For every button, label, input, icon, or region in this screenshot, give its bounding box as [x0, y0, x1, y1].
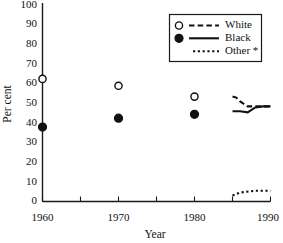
- x-tick-label: 1960: [32, 211, 55, 223]
- x-tick-label: 1990: [257, 211, 280, 223]
- legend-marker-open-circle: [175, 22, 182, 29]
- x-axis-title: Year: [144, 228, 165, 240]
- y-tick-label: 40: [26, 116, 38, 128]
- series-black: [39, 106, 271, 131]
- data-point-marker: [191, 110, 199, 118]
- data-point-marker: [115, 82, 122, 89]
- data-point-marker: [115, 114, 123, 122]
- legend: White Black Other *: [170, 15, 262, 62]
- percent-by-race-line-chart: 100 90 80 70 60 50 40 30 20 10 0 1960: [0, 0, 283, 243]
- series-line-white: [233, 97, 271, 107]
- x-tick-label: 1970: [108, 211, 131, 223]
- y-tick-label: 70: [26, 57, 38, 69]
- series-line-other: [233, 191, 271, 196]
- y-tick-label: 0: [32, 194, 38, 206]
- y-tick-label: 100: [21, 0, 38, 10]
- y-axis-tick-labels: 100 90 80 70 60 50 40 30 20 10 0: [21, 0, 38, 206]
- y-tick-label: 50: [26, 96, 38, 108]
- y-tick-label: 30: [26, 135, 38, 147]
- y-axis-title: Per cent: [1, 85, 13, 123]
- legend-label: Other *: [225, 44, 258, 56]
- y-tick-label: 60: [26, 76, 38, 88]
- data-point-marker: [39, 123, 47, 131]
- y-tick-label: 90: [26, 17, 38, 29]
- legend-marker-filled-circle: [175, 34, 183, 42]
- legend-label: White: [225, 18, 252, 30]
- x-axis-ticks: [43, 197, 271, 202]
- data-point-marker: [39, 75, 46, 82]
- x-tick-label: 1980: [184, 211, 207, 223]
- y-tick-label: 10: [26, 175, 38, 187]
- y-tick-label: 20: [26, 155, 38, 167]
- series-other: [233, 191, 271, 196]
- chart-container: 100 90 80 70 60 50 40 30 20 10 0 1960: [0, 0, 283, 243]
- legend-label: Black: [225, 31, 251, 43]
- data-point-marker: [191, 93, 198, 100]
- x-axis-tick-labels: 1960 1970 1980 1990: [32, 211, 280, 223]
- y-tick-label: 80: [26, 37, 38, 49]
- series-white: [39, 75, 271, 106]
